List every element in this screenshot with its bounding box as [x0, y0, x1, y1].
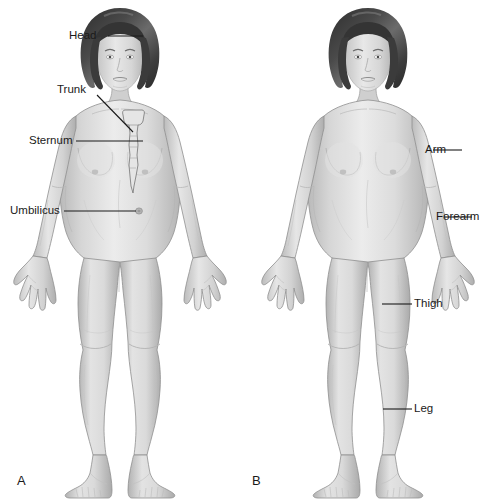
panel-a-figure — [14, 8, 227, 498]
anatomy-illustration — [0, 0, 496, 499]
leg-label: Leg — [414, 403, 433, 415]
figure-canvas: Head Trunk Sternum Umbilicus Arm Forearm… — [0, 0, 496, 499]
trunk-label: Trunk — [57, 84, 86, 96]
arm-label: Arm — [425, 144, 446, 156]
thigh-label: Thigh — [414, 298, 443, 310]
panel-b-figure — [262, 8, 475, 498]
sternum-label: Sternum — [29, 135, 72, 147]
panel-letter-b: B — [252, 474, 261, 487]
panel-letter-a: A — [17, 474, 26, 487]
umbilicus-label: Umbilicus — [10, 205, 60, 217]
head-label: Head — [69, 30, 97, 42]
forearm-label: Forearm — [436, 211, 479, 223]
